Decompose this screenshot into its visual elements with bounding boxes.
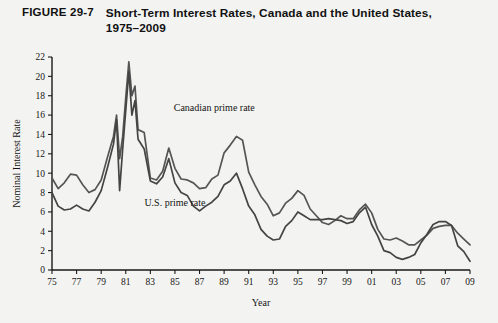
x-tick-label: 75 [47, 277, 57, 287]
x-axis-title: Year [252, 297, 271, 308]
y-tick-label: 18 [36, 91, 46, 101]
figure-number: FIGURE 29-7 [22, 6, 94, 18]
annotation-label-1: U.S. prime rate [144, 197, 206, 208]
figure-container: FIGURE 29-7 Short-Term Interest Rates, C… [0, 0, 498, 323]
y-tick-label: 14 [36, 130, 46, 140]
x-tick-label: 95 [293, 277, 303, 287]
annotation-label-0: Canadian prime rate [174, 102, 256, 113]
x-tick-label: 85 [170, 277, 180, 287]
series-annotations: Canadian prime rateU.S. prime rate [144, 102, 255, 208]
data-series-group [52, 62, 470, 261]
y-tick-label: 4 [40, 227, 45, 237]
series-line-canadian [52, 62, 470, 245]
x-tick-label: 97 [318, 277, 328, 287]
x-tick-label: 81 [121, 277, 131, 287]
line-chart: 0246810121416182022 75777981838587899193… [0, 44, 498, 323]
x-tick-label: 93 [269, 277, 279, 287]
x-tick-label: 83 [146, 277, 156, 287]
x-tick-label: 05 [416, 277, 426, 287]
y-tick-label: 8 [40, 188, 45, 198]
y-tick-label: 6 [40, 207, 45, 217]
x-tick-label: 99 [342, 277, 352, 287]
x-tick-label: 87 [195, 277, 205, 287]
y-tick-label: 10 [36, 169, 46, 179]
y-tick-label: 12 [36, 149, 46, 159]
y-tick-label: 16 [36, 110, 46, 120]
y-tick-label: 20 [36, 72, 46, 82]
x-axis-ticks: 757779818385878991939597990103050709 [47, 270, 475, 287]
x-tick-label: 03 [391, 277, 401, 287]
x-tick-label: 07 [441, 277, 451, 287]
y-tick-label: 2 [40, 246, 45, 256]
x-tick-label: 79 [96, 277, 106, 287]
figure-header: FIGURE 29-7 Short-Term Interest Rates, C… [22, 6, 484, 36]
x-tick-label: 77 [72, 277, 82, 287]
figure-title: Short-Term Interest Rates, Canada and th… [106, 6, 461, 36]
x-tick-label: 01 [367, 277, 377, 287]
chart-area: 0246810121416182022 75777981838587899193… [0, 44, 498, 323]
y-tick-label: 22 [36, 52, 46, 62]
x-tick-label: 89 [219, 277, 229, 287]
y-axis-ticks: 0246810121416182022 [36, 52, 53, 275]
x-tick-label: 91 [244, 277, 254, 287]
axis-frame [52, 57, 470, 270]
x-tick-label: 09 [465, 277, 475, 287]
y-tick-label: 0 [40, 265, 45, 275]
y-axis-title: Nominal Interest Rate [11, 119, 22, 208]
series-line-us [52, 72, 470, 262]
